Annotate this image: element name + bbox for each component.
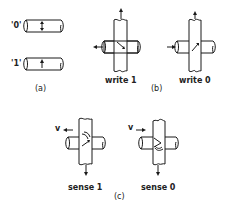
down-arrow-icon	[156, 165, 160, 176]
write-zero-diagram: write 0	[167, 11, 215, 85]
state-zero-label: '0'	[11, 21, 21, 30]
bidirectional-arrow-icon	[40, 21, 44, 31]
panel-b: write 1 write 0 (b)	[93, 8, 215, 93]
state-zero: '0'	[11, 20, 63, 32]
panel-c: v sense 1	[55, 118, 178, 201]
panel-a: '0' '1'	[11, 20, 63, 93]
wire-icon	[24, 20, 64, 32]
state-one-label: '1'	[11, 59, 21, 68]
sense-one-label: sense 1	[68, 183, 103, 192]
down-arrow-icon	[84, 165, 88, 176]
up-arrow-icon	[119, 8, 123, 19]
panel-a-caption: (a)	[35, 84, 46, 93]
write-one-label: write 1	[105, 76, 137, 85]
flux-change-icon	[82, 132, 90, 146]
write-one-diagram: write 1	[93, 8, 140, 85]
wire-icon	[24, 58, 64, 70]
right-arrow-icon	[136, 128, 146, 132]
sense-zero-label: sense 0	[141, 183, 176, 192]
panel-c-caption: (c)	[114, 192, 125, 201]
field-arrow-icon	[192, 43, 199, 51]
sense-one-diagram: v sense 1	[55, 118, 105, 192]
write-zero-label: write 0	[179, 76, 211, 85]
sense-one-voltage-label: v	[55, 124, 61, 133]
sense-zero-diagram: v sense 0	[128, 119, 178, 192]
up-arrow-icon	[40, 59, 44, 68]
flux-change-icon	[154, 138, 163, 150]
sense-zero-voltage-label: v	[128, 123, 134, 132]
up-arrow-icon	[193, 11, 197, 19]
left-arrow-icon	[63, 128, 73, 132]
panel-b-caption: (b)	[151, 84, 162, 93]
magnetic-core-memory-diagram: '0' '1'	[0, 0, 229, 206]
state-one: '1'	[11, 58, 63, 70]
